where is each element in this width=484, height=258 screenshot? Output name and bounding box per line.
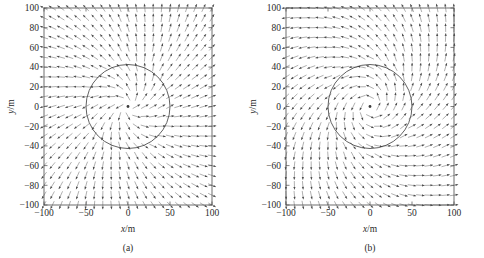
y-tick-label: −60 bbox=[24, 161, 39, 171]
panel-caption: (b) bbox=[364, 243, 375, 254]
panel-a: −100−50050100−100−80−60−40−2002040608010… bbox=[0, 0, 242, 258]
y-tick-label: −20 bbox=[24, 122, 39, 132]
x-tick-label: 0 bbox=[368, 208, 373, 218]
centre-point bbox=[127, 105, 130, 108]
x-tick-label: −50 bbox=[321, 208, 336, 218]
y-tick-label: −40 bbox=[24, 141, 39, 151]
panel-b: −100−50050100−100−80−60−40−2002040608010… bbox=[242, 0, 484, 258]
x-axis-title: x/m bbox=[120, 224, 136, 234]
panel-b-plot: −100−50050100−100−80−60−40−2002040608010… bbox=[242, 0, 484, 258]
y-tick-label: −60 bbox=[266, 161, 281, 171]
y-tick-label: 20 bbox=[30, 82, 40, 92]
y-tick-label: 20 bbox=[272, 82, 282, 92]
y-tick-label: −80 bbox=[24, 181, 39, 191]
y-tick-label: 0 bbox=[34, 102, 39, 112]
vector-field-figure: −100−50050100−100−80−60−40−2002040608010… bbox=[0, 0, 484, 258]
x-tick-label: 50 bbox=[407, 208, 417, 218]
x-axis-title: x/m bbox=[362, 224, 378, 234]
y-tick-label: 100 bbox=[267, 3, 282, 13]
x-tick-label: 0 bbox=[126, 208, 131, 218]
y-tick-label: −100 bbox=[261, 200, 281, 210]
y-tick-label: 0 bbox=[276, 102, 281, 112]
panel-caption: (a) bbox=[123, 243, 134, 254]
panel-a-plot: −100−50050100−100−80−60−40−2002040608010… bbox=[0, 0, 242, 258]
y-tick-label: −40 bbox=[266, 141, 281, 151]
x-tick-label: −50 bbox=[79, 208, 94, 218]
x-tick-label: 100 bbox=[205, 208, 220, 218]
y-tick-label: 80 bbox=[272, 23, 282, 33]
y-tick-label: 40 bbox=[272, 62, 282, 72]
y-tick-label: 100 bbox=[25, 3, 40, 13]
y-axis-title: y/m bbox=[248, 99, 258, 115]
y-tick-label: −100 bbox=[19, 200, 39, 210]
x-tick-label: 50 bbox=[165, 208, 175, 218]
y-axis-title: y/m bbox=[6, 99, 16, 115]
y-tick-label: −80 bbox=[266, 181, 281, 191]
centre-point bbox=[369, 105, 372, 108]
y-tick-label: −20 bbox=[266, 122, 281, 132]
y-tick-label: 80 bbox=[30, 23, 40, 33]
y-tick-label: 40 bbox=[30, 62, 40, 72]
x-tick-label: 100 bbox=[447, 208, 462, 218]
y-tick-label: 60 bbox=[272, 43, 282, 53]
y-tick-label: 60 bbox=[30, 43, 40, 53]
